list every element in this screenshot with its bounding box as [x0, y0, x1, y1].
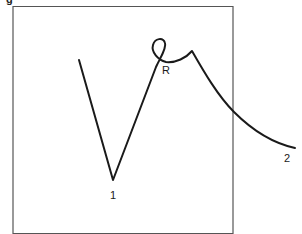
point-r-label: R — [162, 65, 170, 76]
figure-caption-fragment: g — [6, 0, 13, 5]
frame-box — [13, 6, 233, 234]
point-1-label: 1 — [110, 190, 116, 201]
diagram-figure: g 1 R 2 — [0, 0, 302, 234]
diagram-canvas — [0, 0, 302, 234]
point-2-label: 2 — [284, 153, 290, 164]
trajectory-path — [79, 39, 295, 180]
